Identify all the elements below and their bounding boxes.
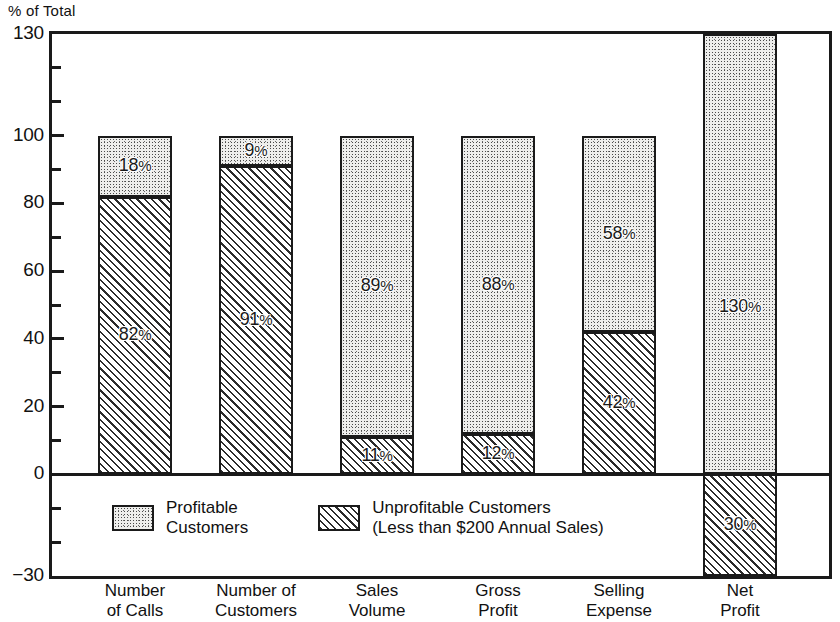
chart-root: % of Total 130100806040200−30 82%18%91%9… (0, 0, 840, 622)
plot-area: 82%18%91%9%11%89%12%88%42%58%130%30% Pro… (49, 31, 832, 579)
y-axis-tick-minor (49, 541, 61, 544)
legend-item[interactable]: Unprofitable Customers(Less than $200 An… (318, 498, 604, 538)
x-axis-label-line: Gross (428, 581, 568, 601)
y-axis-tick-minor (49, 439, 61, 442)
legend-label-line: Profitable (166, 498, 248, 518)
x-axis-label-line: Expense (549, 601, 689, 621)
y-axis-tick-minor (49, 507, 61, 510)
y-axis-tick-major (49, 134, 64, 137)
y-axis-title: % of Total (8, 2, 76, 19)
y-axis-tick-label: 40 (0, 327, 44, 349)
bar-segment-profitable (703, 34, 777, 474)
y-axis-tick-major (49, 473, 64, 476)
legend-item[interactable]: ProfitableCustomers (112, 498, 248, 538)
bar-value-label: 130% (703, 296, 777, 317)
y-axis-tick-minor (49, 236, 61, 239)
legend-swatch-hatch (318, 505, 360, 531)
legend: ProfitableCustomersUnprofitable Customer… (112, 498, 604, 538)
y-axis-tick-minor (49, 371, 61, 374)
legend-label-line: (Less than $200 Annual Sales) (372, 518, 604, 538)
bar-value-label: 88% (461, 274, 535, 295)
y-axis-tick-major (49, 337, 64, 340)
bar-value-label: 11% (340, 445, 414, 466)
y-axis-tick-major (49, 202, 64, 205)
bar-value-label: 12% (461, 443, 535, 464)
y-axis-tick-minor (49, 66, 61, 69)
plot-canvas: 82%18%91%9%11%89%12%88%42%58%130%30% Pro… (52, 34, 829, 576)
x-axis-category-label: NetProfit (670, 581, 810, 621)
y-axis-tick-label: 100 (0, 124, 44, 146)
x-axis-category-label: Number ofCustomers (186, 581, 326, 621)
x-axis-category-label: SalesVolume (307, 581, 447, 621)
y-axis-tick-minor (49, 168, 61, 171)
legend-label-line: Unprofitable Customers (372, 498, 604, 518)
y-axis-tick-minor (49, 304, 61, 307)
x-axis-label-line: Selling (549, 581, 689, 601)
x-axis-label-line: Profit (428, 601, 568, 621)
legend-label: ProfitableCustomers (166, 498, 248, 538)
bar-value-label: 18% (98, 155, 172, 176)
bar-value-label: 42% (582, 392, 656, 413)
bar-value-label: 91% (219, 309, 293, 330)
y-axis-tick-label: 60 (0, 259, 44, 281)
y-axis-tick-major (49, 270, 64, 273)
bar-value-label: 58% (582, 223, 656, 244)
legend-swatch-stipple (112, 505, 154, 531)
x-axis-label-line: of Calls (65, 601, 205, 621)
y-axis-tick-major (49, 405, 64, 408)
x-axis-category-label: Numberof Calls (65, 581, 205, 621)
x-axis-label-line: Net (670, 581, 810, 601)
bar-value-label: 30% (703, 514, 777, 535)
y-axis-tick-label: 130 (0, 22, 44, 44)
y-axis-tick-label: −30 (0, 564, 44, 586)
bar-value-label: 89% (340, 275, 414, 296)
x-axis-label-line: Customers (186, 601, 326, 621)
x-axis-label-line: Number of (186, 581, 326, 601)
x-axis-label-line: Number (65, 581, 205, 601)
x-axis-category-label: GrossProfit (428, 581, 568, 621)
x-axis-category-label: SellingExpense (549, 581, 689, 621)
legend-label-line: Customers (166, 518, 248, 538)
y-axis-tick-label: 20 (0, 395, 44, 417)
y-axis-tick-minor (49, 100, 61, 103)
legend-label: Unprofitable Customers(Less than $200 An… (372, 498, 604, 538)
bar-value-label: 9% (219, 140, 293, 161)
x-axis-label-line: Profit (670, 601, 810, 621)
x-axis-label-line: Sales (307, 581, 447, 601)
y-axis-tick-label: 0 (0, 462, 44, 484)
x-axis-label-line: Volume (307, 601, 447, 621)
y-axis-tick-label: 80 (0, 191, 44, 213)
bar-value-label: 82% (98, 324, 172, 345)
